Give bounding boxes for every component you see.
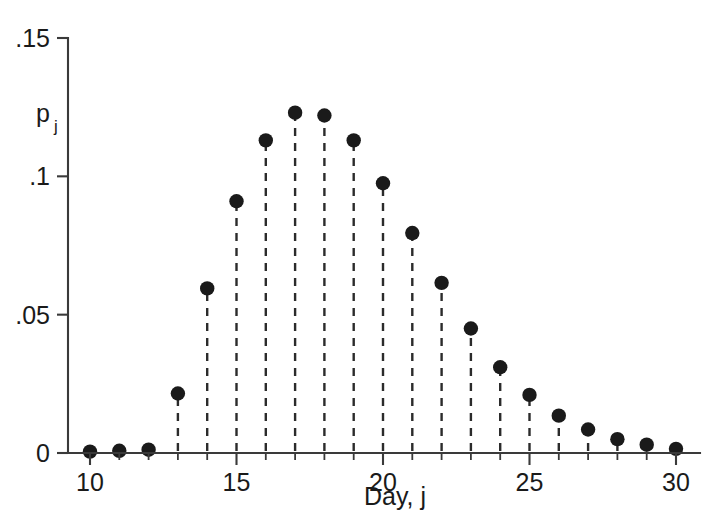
y-axis-tick-label: .1 xyxy=(29,162,50,190)
data-point-marker xyxy=(640,438,654,452)
x-axis-title: Day, j xyxy=(364,482,426,510)
data-point-marker xyxy=(376,176,390,190)
data-point-marker xyxy=(229,194,243,208)
figure-container: 0.05.1.151015202530 p j Day, j xyxy=(0,0,724,530)
data-point-marker xyxy=(347,133,361,147)
x-axis-tick-label: 25 xyxy=(516,468,544,496)
y-axis-tick-label: .05 xyxy=(15,301,50,329)
data-point-marker xyxy=(288,106,302,120)
plot-background xyxy=(0,0,724,530)
x-axis-tick-label: 15 xyxy=(223,468,251,496)
x-axis-tick-label: 10 xyxy=(76,468,104,496)
data-point-marker xyxy=(434,276,448,290)
x-axis-tick-label: 30 xyxy=(662,468,690,496)
data-point-marker xyxy=(610,432,624,446)
data-point-marker xyxy=(581,422,595,436)
y-axis-tick-label: .15 xyxy=(15,24,50,52)
data-point-marker xyxy=(552,408,566,422)
data-point-marker xyxy=(317,108,331,122)
y-axis-title-subscript: j xyxy=(53,117,58,136)
data-point-marker xyxy=(171,386,185,400)
y-axis-title-text: p xyxy=(36,99,50,127)
data-point-marker xyxy=(259,133,273,147)
data-point-marker xyxy=(493,360,507,374)
data-point-marker xyxy=(522,388,536,402)
data-point-marker xyxy=(405,226,419,240)
probability-stem-chart: 0.05.1.151015202530 p j Day, j xyxy=(0,0,724,530)
y-axis-tick-label: 0 xyxy=(36,439,50,467)
data-point-marker xyxy=(464,321,478,335)
data-point-marker xyxy=(200,281,214,295)
x-axis-title-text: Day, j xyxy=(364,482,426,510)
